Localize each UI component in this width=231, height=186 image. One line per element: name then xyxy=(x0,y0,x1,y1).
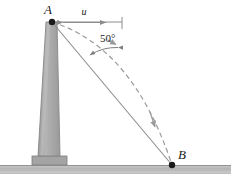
pedestal-block xyxy=(32,156,67,165)
velocity-label: u xyxy=(82,6,87,17)
tower-pedestal xyxy=(32,156,67,165)
ground-band xyxy=(0,165,231,174)
point-a-marker xyxy=(49,19,55,25)
diagram-canvas: A B u 50° xyxy=(0,0,231,186)
angle-label: 50° xyxy=(100,32,115,44)
tower xyxy=(38,22,60,156)
point-b-marker xyxy=(169,162,175,168)
projectile-diagram: A B u 50° xyxy=(0,0,231,186)
ground xyxy=(0,165,231,174)
point-a-label: A xyxy=(43,2,52,17)
point-b-label: B xyxy=(178,147,186,162)
